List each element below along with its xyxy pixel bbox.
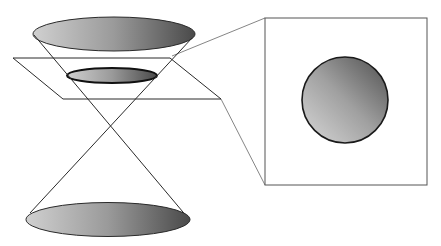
- cone-generator-line-2: [30, 38, 192, 213]
- section-circle-ellipse: [67, 68, 157, 83]
- upper-cone-base-ellipse: [33, 17, 195, 51]
- conic-section-diagram: [0, 0, 441, 246]
- lower-cone-base-ellipse: [26, 203, 190, 237]
- section-circle: [302, 57, 388, 143]
- projection-line-bottom: [221, 99, 265, 185]
- cone-generator-line-1: [34, 35, 188, 218]
